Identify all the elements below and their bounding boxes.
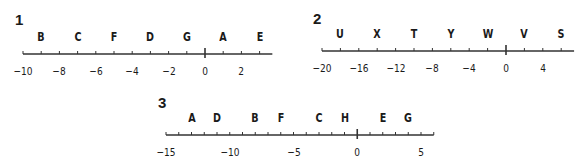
tick-label: −15 (154, 147, 177, 158)
point-label-e: E (255, 31, 263, 43)
point-label-v: V (520, 28, 529, 40)
point-label-x: X (373, 28, 382, 40)
point-label-u: U (336, 28, 346, 40)
tick-label: 0 (503, 63, 510, 74)
point-label-d: D (145, 31, 155, 43)
point-label-f: F (277, 112, 285, 124)
point-label-w: W (481, 28, 494, 40)
tick-label: 2 (238, 66, 245, 77)
point-label-t: T (410, 28, 418, 40)
problem-number-1: 1 (15, 12, 23, 27)
tick-label: −4 (461, 63, 477, 74)
tick-label: −5 (285, 147, 301, 158)
tick-label: −2 (160, 66, 176, 77)
tick-label: −10 (218, 147, 241, 158)
tick-label: −8 (424, 63, 440, 74)
tick-label: 0 (202, 66, 209, 77)
point-label-b: B (37, 31, 46, 43)
tick-label: −6 (88, 66, 104, 77)
point-label-f: F (110, 31, 118, 43)
tick-label: −4 (124, 66, 140, 77)
tick-label: −10 (11, 66, 34, 77)
point-label-y: Y (446, 28, 455, 40)
tick-label: 5 (418, 147, 425, 158)
point-label-g: G (403, 112, 413, 124)
point-label-b: B (251, 112, 260, 124)
number-line-axes (0, 0, 587, 168)
tick-label: −16 (347, 63, 370, 74)
tick-label: −8 (51, 66, 67, 77)
point-label-s: S (557, 28, 566, 40)
point-label-a: A (187, 112, 196, 124)
point-label-a: A (219, 31, 228, 43)
point-label-h: H (339, 112, 349, 124)
tick-label: −20 (310, 63, 333, 74)
point-label-e: E (379, 112, 387, 124)
tick-label: 0 (354, 147, 361, 158)
point-label-c: C (315, 112, 324, 124)
point-label-g: G (182, 31, 192, 43)
number-line-2 (322, 45, 574, 55)
point-label-c: C (73, 31, 82, 43)
number-line-1 (23, 48, 272, 58)
tick-label: −12 (384, 63, 407, 74)
point-label-d: D (212, 112, 222, 124)
problem-number-3: 3 (158, 95, 166, 110)
problem-number-2: 2 (313, 11, 321, 26)
number-line-3 (166, 129, 434, 139)
tick-label: 4 (539, 63, 546, 74)
